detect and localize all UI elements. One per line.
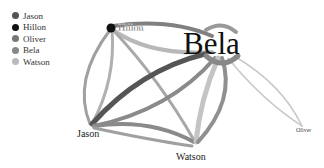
edge-bela-oliver-b xyxy=(234,56,302,126)
edge-jason-watson-b xyxy=(94,128,192,146)
legend-item-hillon[interactable]: Hillon xyxy=(12,22,50,34)
node-label-hillon: Hillon xyxy=(118,22,144,33)
legend-item-bela[interactable]: Bela xyxy=(12,45,50,57)
edge-bela-oliver-a xyxy=(228,58,302,126)
legend-item-watson[interactable]: Watson xyxy=(12,56,50,68)
legend-dot-icon xyxy=(12,58,19,65)
legend-dot-icon xyxy=(12,12,19,19)
legend-label: Bela xyxy=(23,45,40,55)
legend-label: Jason xyxy=(23,11,43,21)
network-graph: Hillon Bela Jason Watson Oliver Jason Hi… xyxy=(0,0,324,168)
legend-label: Oliver xyxy=(23,34,46,44)
legend-item-oliver[interactable]: Oliver xyxy=(12,33,50,45)
node-label-jason: Jason xyxy=(77,128,99,139)
legend-label: Hillon xyxy=(23,22,46,32)
legend-dot-icon xyxy=(12,35,19,42)
legend-item-jason[interactable]: Jason xyxy=(12,10,50,22)
legend-dot-icon xyxy=(12,47,19,54)
node-hillon[interactable] xyxy=(107,24,116,33)
legend: Jason Hillon Oliver Bela Watson xyxy=(12,10,50,68)
node-label-watson: Watson xyxy=(176,151,206,162)
edge-jason-bela-a xyxy=(92,54,205,124)
legend-dot-icon xyxy=(12,24,19,31)
node-label-bela: Bela xyxy=(183,26,240,61)
node-label-oliver: Oliver xyxy=(296,127,311,133)
legend-label: Watson xyxy=(23,57,50,67)
